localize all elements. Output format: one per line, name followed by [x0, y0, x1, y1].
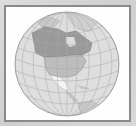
map-frame	[4, 5, 131, 122]
globe-map	[6, 7, 129, 120]
